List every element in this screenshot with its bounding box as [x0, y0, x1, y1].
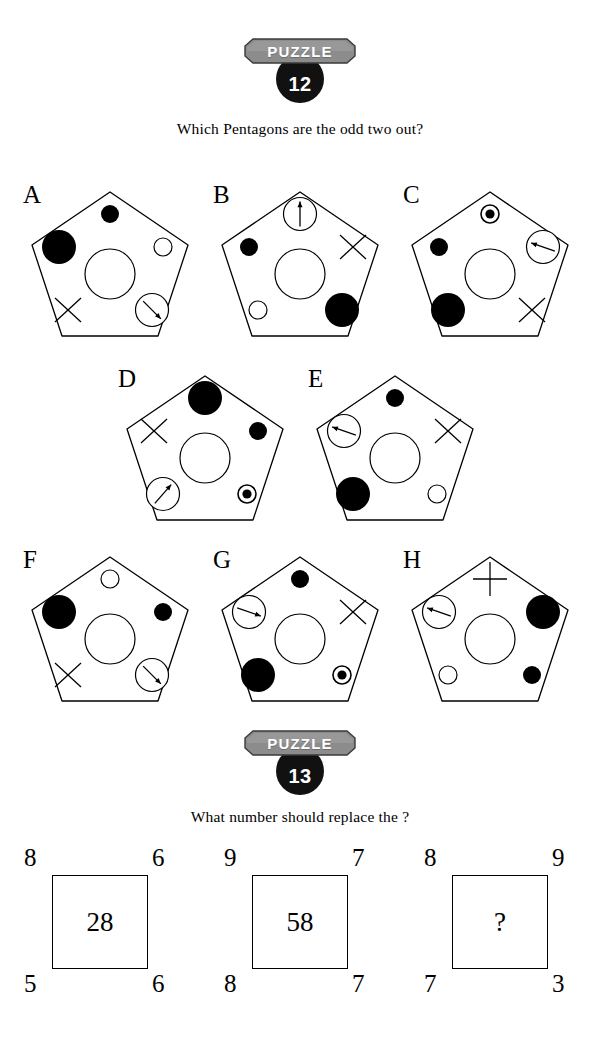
pentagon-e[interactable]: E — [300, 362, 490, 534]
large-black-circle-icon — [431, 293, 465, 327]
puzzle-badge-12: PUZZLE 12 — [0, 38, 600, 104]
corner-top-left: 9 — [224, 845, 237, 870]
pentagon-figure — [110, 362, 300, 534]
small-black-circle-icon — [386, 389, 404, 407]
corner-bottom-left: 7 — [424, 971, 437, 996]
large-white-circle-icon — [275, 614, 325, 664]
small-white-circle-icon — [428, 485, 446, 503]
pentagon-letter-label: D — [118, 366, 136, 391]
puzzle-banner: PUZZLE — [244, 730, 356, 756]
square-outline: 58 — [252, 875, 348, 969]
target-circle-dot-icon — [242, 489, 251, 498]
large-black-circle-icon — [42, 595, 76, 629]
number-squares-row: 8656289787588973? — [0, 845, 600, 1015]
square-outline: 28 — [52, 875, 148, 969]
pentagon-figure — [205, 178, 395, 350]
pentagon-b[interactable]: B — [205, 178, 395, 350]
question-text-12: Which Pentagons are the odd two out? — [0, 120, 600, 138]
corner-bottom-right: 3 — [552, 971, 565, 996]
puzzle-number-label: 13 — [288, 766, 311, 795]
puzzle-number-label: 12 — [288, 74, 311, 103]
pentagon-d[interactable]: D — [110, 362, 300, 534]
pentagon-figure — [395, 543, 585, 715]
pentagon-letter-label: H — [403, 547, 421, 572]
pentagon-row-3: FGH — [0, 543, 600, 715]
small-white-circle-icon — [154, 238, 172, 256]
pentagon-letter-label: C — [403, 182, 420, 207]
pentagon-letter-label: F — [23, 547, 37, 572]
large-black-circle-icon — [188, 381, 222, 415]
question-text-13: What number should replace the ? — [0, 808, 600, 826]
pentagon-g[interactable]: G — [205, 543, 395, 715]
pentagon-letter-label: A — [23, 182, 41, 207]
puzzle-banner-label: PUZZLE — [267, 43, 333, 60]
number-square-1[interactable]: 865628 — [0, 845, 200, 1015]
puzzle-page: PUZZLE 12 Which Pentagons are the odd tw… — [0, 0, 600, 1060]
large-white-circle-icon — [85, 249, 135, 299]
corner-top-right: 9 — [552, 845, 565, 870]
large-black-circle-icon — [42, 230, 76, 264]
corner-bottom-left: 8 — [224, 971, 237, 996]
corner-bottom-right: 6 — [152, 971, 165, 996]
square-center-value: 58 — [287, 909, 314, 936]
small-white-circle-icon — [101, 570, 119, 588]
pentagon-letter-label: G — [213, 547, 231, 572]
large-black-circle-icon — [325, 293, 359, 327]
corner-top-left: 8 — [24, 845, 37, 870]
small-black-circle-icon — [249, 422, 267, 440]
answer-placeholder: ? — [494, 909, 506, 936]
corner-top-right: 6 — [152, 845, 165, 870]
puzzle-banner-label: PUZZLE — [267, 735, 333, 752]
small-black-circle-icon — [291, 570, 309, 588]
small-black-circle-icon — [240, 238, 258, 256]
pentagon-c[interactable]: C — [395, 178, 585, 350]
pentagon-figure — [15, 543, 205, 715]
pentagon-figure — [300, 362, 490, 534]
pentagon-figure — [15, 178, 205, 350]
large-black-circle-icon — [526, 595, 560, 629]
number-square-3[interactable]: 8973? — [400, 845, 600, 1015]
pentagon-letter-label: E — [308, 366, 323, 391]
large-white-circle-icon — [275, 249, 325, 299]
corner-bottom-left: 5 — [24, 971, 37, 996]
large-white-circle-icon — [85, 614, 135, 664]
pentagon-figure — [395, 178, 585, 350]
pentagon-letter-label: B — [213, 182, 230, 207]
small-black-circle-icon — [523, 666, 541, 684]
pentagon-figure — [205, 543, 395, 715]
small-black-circle-icon — [430, 238, 448, 256]
pentagon-a[interactable]: A — [15, 178, 205, 350]
large-white-circle-icon — [180, 433, 230, 483]
square-outline: ? — [452, 875, 548, 969]
corner-top-right: 7 — [352, 845, 365, 870]
pentagon-row-2: DE — [0, 362, 600, 534]
corner-top-left: 8 — [424, 845, 437, 870]
puzzle-badge-13: PUZZLE 13 — [0, 730, 600, 796]
corner-bottom-right: 7 — [352, 971, 365, 996]
puzzle-banner: PUZZLE — [244, 38, 356, 64]
target-circle-dot-icon — [485, 209, 494, 218]
number-square-2[interactable]: 978758 — [200, 845, 400, 1015]
large-white-circle-icon — [465, 249, 515, 299]
small-white-circle-icon — [439, 666, 457, 684]
large-black-circle-icon — [336, 477, 370, 511]
large-black-circle-icon — [241, 658, 275, 692]
target-circle-dot-icon — [337, 670, 346, 679]
square-center-value: 28 — [87, 909, 114, 936]
small-white-circle-icon — [249, 301, 267, 319]
small-black-circle-icon — [154, 603, 172, 621]
large-white-circle-icon — [370, 433, 420, 483]
pentagon-h[interactable]: H — [395, 543, 585, 715]
pentagon-f[interactable]: F — [15, 543, 205, 715]
small-black-circle-icon — [101, 205, 119, 223]
pentagon-row-1: ABC — [0, 178, 600, 350]
large-white-circle-icon — [465, 614, 515, 664]
